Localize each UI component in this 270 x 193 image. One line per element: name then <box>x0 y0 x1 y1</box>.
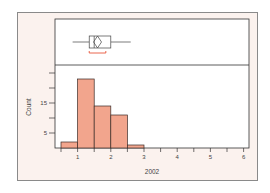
x-axis-title: 2002 <box>145 168 160 175</box>
histogram-bar <box>78 79 95 148</box>
x-tick-label: 4 <box>176 154 180 160</box>
x-tick-label: 2 <box>109 154 113 160</box>
chart-svg: 123456 515 2002 Count <box>0 0 270 193</box>
x-axis: 123456 <box>61 148 246 160</box>
iqr-box <box>89 36 111 48</box>
histogram-bar <box>127 145 144 148</box>
histogram-bar <box>111 115 128 148</box>
y-axis-title: Count <box>25 98 32 116</box>
y-tick-label: 15 <box>40 100 47 106</box>
histogram-bar <box>61 142 78 148</box>
x-tick-label: 1 <box>76 154 80 160</box>
y-tick-label: 5 <box>44 130 48 136</box>
y-axis: 515 <box>40 73 55 136</box>
x-tick-label: 6 <box>242 154 246 160</box>
histogram-bar <box>94 106 111 148</box>
x-tick-label: 5 <box>209 154 213 160</box>
x-tick-label: 3 <box>142 154 146 160</box>
